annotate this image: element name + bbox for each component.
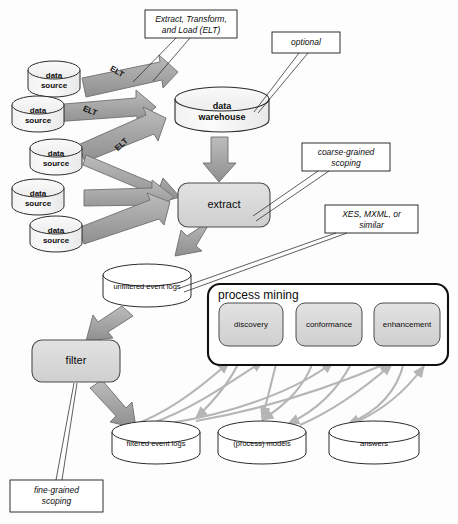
- filter-box: [32, 340, 120, 382]
- warehouse-to-extract-arrow: [203, 137, 236, 182]
- diagram-svg: [0, 0, 458, 524]
- answers-cylinder: [329, 421, 419, 464]
- discovery-box: [219, 303, 283, 346]
- elt-arrow-1: [82, 55, 178, 97]
- data-source-cylinder-4: [12, 179, 64, 215]
- filter-to-output-arrow: [90, 380, 136, 428]
- process-models-cylinder: [218, 421, 306, 464]
- diagram-canvas: data source data source data source data…: [0, 0, 458, 524]
- filtered-event-logs-cylinder: [112, 421, 200, 464]
- data-source-cylinder-2: [12, 96, 64, 132]
- extract-box: [178, 183, 270, 227]
- enhancement-box: [374, 303, 440, 346]
- fine-scoping-note-box: [10, 383, 103, 512]
- data-source-cylinder-5: [30, 216, 82, 252]
- unfiltered-event-logs-cylinder: [103, 264, 191, 307]
- process-mining-flow-curves: [133, 360, 424, 425]
- data-source-cylinder-1: [28, 61, 80, 97]
- curve-logs-to-conformance: [150, 361, 263, 424]
- curve-conformance-to-models: [262, 360, 277, 418]
- data-warehouse-cylinder: [175, 87, 269, 132]
- logs-to-filter-arrow: [86, 306, 133, 341]
- data-source-cylinder-3: [30, 139, 82, 175]
- curve-logs-to-discovery: [133, 362, 229, 425]
- conformance-box: [296, 303, 362, 346]
